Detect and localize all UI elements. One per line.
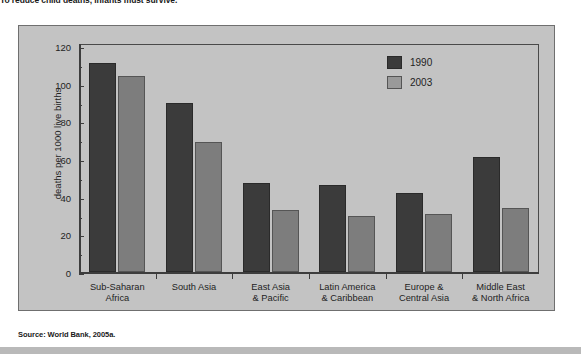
x-tick-divider bbox=[309, 274, 310, 279]
bar-1990-4 bbox=[396, 193, 423, 272]
x-category-line: East Asia bbox=[232, 282, 309, 293]
x-category-label-5: Middle East& North Africa bbox=[462, 282, 539, 304]
x-category-label-1: South Asia bbox=[156, 282, 233, 293]
legend-item-2003: 2003 bbox=[387, 76, 432, 89]
x-category-label-2: East Asia& Pacific bbox=[232, 282, 309, 304]
bar-1990-2 bbox=[243, 183, 270, 272]
x-category-line: Sub-Saharan bbox=[79, 282, 156, 293]
x-category-line: & Caribbean bbox=[309, 293, 386, 304]
x-tick-divider bbox=[156, 274, 157, 279]
page-headline: To reduce child deaths, infants must sur… bbox=[0, 0, 177, 5]
chart-legend: 1990 2003 bbox=[387, 56, 432, 96]
legend-label-2003: 2003 bbox=[410, 77, 432, 88]
x-tick-divider bbox=[232, 274, 233, 279]
x-category-line: Middle East bbox=[462, 282, 539, 293]
x-category-line: & North Africa bbox=[462, 293, 539, 304]
legend-swatch-1990-icon bbox=[387, 56, 402, 69]
source-note: Source: World Bank, 2005a. bbox=[18, 330, 115, 339]
bar-2003-4 bbox=[425, 214, 452, 272]
x-category-line: Latin America bbox=[309, 282, 386, 293]
bars-layer bbox=[19, 26, 554, 310]
legend-swatch-2003-icon bbox=[387, 76, 402, 89]
legend-label-1990: 1990 bbox=[410, 57, 432, 68]
x-category-line: Europe & bbox=[386, 282, 463, 293]
bar-1990-3 bbox=[319, 185, 346, 272]
x-category-label-4: Europe &Central Asia bbox=[386, 282, 463, 304]
bar-1990-1 bbox=[166, 103, 193, 273]
bar-1990-0 bbox=[89, 63, 116, 272]
x-category-line: Central Asia bbox=[386, 293, 463, 304]
x-tick-divider bbox=[462, 274, 463, 279]
bottom-rule bbox=[0, 347, 581, 354]
bar-2003-3 bbox=[348, 216, 375, 273]
x-category-line: South Asia bbox=[156, 282, 233, 293]
legend-item-1990: 1990 bbox=[387, 56, 432, 69]
x-category-label-0: Sub-SaharanAfrica bbox=[79, 282, 156, 304]
x-category-line: & Pacific bbox=[232, 293, 309, 304]
bar-2003-1 bbox=[195, 142, 222, 272]
bar-2003-5 bbox=[502, 208, 529, 272]
bar-1990-5 bbox=[473, 157, 500, 272]
x-tick-divider bbox=[386, 274, 387, 279]
x-category-label-3: Latin America& Caribbean bbox=[309, 282, 386, 304]
figure-panel: deaths per 1000 live births 020406080100… bbox=[18, 25, 555, 311]
bar-2003-0 bbox=[118, 76, 145, 272]
x-category-line: Africa bbox=[79, 293, 156, 304]
bar-2003-2 bbox=[272, 210, 299, 272]
